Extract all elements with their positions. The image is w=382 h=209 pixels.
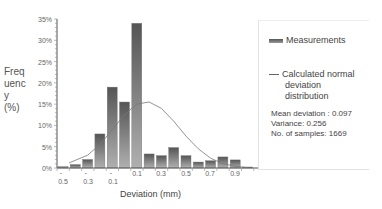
histogram-bar	[193, 162, 203, 168]
bar-swatch-icon	[269, 39, 283, 43]
x-tick-label: 0.1	[132, 170, 142, 177]
histogram-chart: 35%30%25%20%15%10%5%0%-0.5-0.3-0.10.10.3…	[0, 0, 382, 209]
histogram-bar	[144, 154, 154, 168]
y-tick-label: 0%	[42, 165, 52, 172]
y-tick-label: 30%	[38, 37, 52, 44]
y-tick-label: 10%	[38, 122, 52, 129]
histogram-bar	[132, 23, 142, 168]
legend-item-measurements: Measurements	[269, 35, 346, 46]
svg-text:-: -	[60, 169, 63, 176]
y-tick-label: 20%	[38, 80, 52, 87]
legend: Measurements Calculated normal deviation…	[258, 20, 369, 170]
y-tick-label: 5%	[42, 144, 52, 151]
y-axis-label: Frequency (%)	[4, 66, 26, 114]
x-tick-label: 0.7	[205, 170, 215, 177]
histogram-bar	[95, 134, 105, 168]
x-tick-label: 0.9	[230, 170, 240, 177]
histogram-bar	[83, 159, 93, 168]
histogram-bar	[70, 165, 80, 168]
x-axis-label: Deviation (mm)	[120, 189, 181, 199]
statistics: Mean deviation : 0.097 Variance: 0.256 N…	[271, 109, 352, 139]
histogram-bar	[107, 87, 117, 168]
y-tick-label: 35%	[38, 16, 52, 23]
histogram-bar	[206, 161, 216, 168]
x-tick-label: 0.3	[83, 178, 93, 185]
x-tick-label: 0.5	[181, 170, 191, 177]
histogram-bar	[156, 156, 166, 168]
y-tick-label: 15%	[38, 101, 52, 108]
svg-text:-: -	[110, 169, 113, 176]
y-tick-label: 25%	[38, 59, 52, 66]
x-tick-label: 0.5	[58, 178, 68, 185]
histogram-bar	[181, 156, 191, 168]
variance: Variance: 0.256	[271, 119, 352, 129]
sample-count: No. of samples: 1669	[271, 129, 352, 139]
line-swatch-icon	[269, 74, 279, 75]
svg-text:-: -	[85, 169, 88, 176]
histogram-bar	[169, 148, 179, 168]
x-tick-label: 0.1	[108, 178, 118, 185]
x-tick-label: 0.3	[156, 170, 166, 177]
mean-deviation: Mean deviation : 0.097	[271, 109, 352, 119]
legend-item-curve: Calculated normal deviation distribution	[269, 69, 355, 102]
